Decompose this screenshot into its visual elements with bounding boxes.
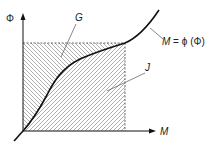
- phi-axis-label: Φ: [6, 13, 14, 24]
- region-j-label: J: [144, 62, 151, 73]
- phi-axis-arrow-icon: [21, 13, 26, 20]
- curve-eq-arg: (Φ): [187, 36, 204, 47]
- m-axis-label: M: [160, 126, 169, 137]
- m-axis-arrow-icon: [149, 129, 156, 134]
- curve-equation-label: M = ϕ (Φ): [162, 36, 205, 47]
- curve-eq-equals: =: [170, 36, 181, 47]
- diagram-canvas: Φ M G J M = ϕ (Φ): [0, 0, 218, 148]
- region-g-label: G: [75, 12, 83, 23]
